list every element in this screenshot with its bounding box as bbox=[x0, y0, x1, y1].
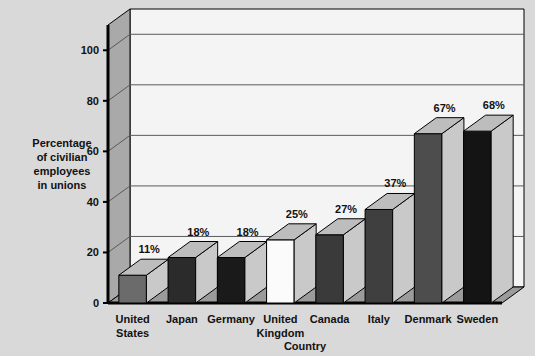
bar-front-3 bbox=[267, 240, 295, 303]
x-category-label-1: Japan bbox=[166, 313, 198, 325]
bar-value-label-3: 25% bbox=[286, 208, 308, 220]
y-tick-label-0: 0 bbox=[93, 297, 99, 309]
bar-side-6 bbox=[442, 118, 464, 303]
y-axis-title-line-3: in unions bbox=[38, 179, 87, 191]
bar-front-7 bbox=[464, 131, 492, 303]
x-category-label-4: Canada bbox=[310, 313, 351, 325]
y-axis-title-line-0: Percentage bbox=[32, 137, 91, 149]
x-category-label-3: United bbox=[263, 313, 297, 325]
x-category-label-0: States bbox=[116, 327, 149, 339]
bar-front-1 bbox=[168, 258, 196, 303]
chart-root: 02040608010011%UnitedStates18%Japan18%Ge… bbox=[0, 0, 535, 356]
bar-front-6 bbox=[414, 134, 442, 303]
bar-value-label-5: 37% bbox=[384, 177, 406, 189]
bar-value-label-7: 68% bbox=[483, 99, 505, 111]
bar-value-label-0: 11% bbox=[138, 243, 160, 255]
x-category-label-3: Kingdom bbox=[257, 327, 305, 339]
y-tick-label-100: 100 bbox=[81, 44, 99, 56]
bar-side-5 bbox=[393, 193, 415, 303]
bar-front-5 bbox=[365, 209, 393, 303]
bar-front-2 bbox=[217, 258, 245, 303]
y-axis-title-line-1: of civilian bbox=[37, 151, 88, 163]
bar-chart-3d: 02040608010011%UnitedStates18%Japan18%Ge… bbox=[0, 0, 535, 356]
bar-value-label-4: 27% bbox=[335, 203, 357, 215]
x-category-label-5: Italy bbox=[368, 313, 391, 325]
y-axis-title-line-2: employees bbox=[34, 165, 91, 177]
x-category-label-0: United bbox=[116, 313, 150, 325]
bar-side-7 bbox=[491, 115, 513, 303]
y-tick-label-20: 20 bbox=[87, 246, 99, 258]
bar-value-label-2: 18% bbox=[237, 226, 259, 238]
x-axis-title: Country bbox=[284, 340, 327, 352]
x-category-label-6: Denmark bbox=[405, 313, 453, 325]
bar-value-label-6: 67% bbox=[434, 102, 456, 114]
y-tick-label-40: 40 bbox=[87, 196, 99, 208]
x-category-label-7: Sweden bbox=[457, 313, 499, 325]
bar-value-label-1: 18% bbox=[187, 226, 209, 238]
bar-front-0 bbox=[119, 275, 147, 303]
plot-left-wall bbox=[108, 9, 130, 303]
bar-front-4 bbox=[316, 235, 344, 303]
y-tick-label-80: 80 bbox=[87, 95, 99, 107]
x-category-label-2: Germany bbox=[207, 313, 256, 325]
